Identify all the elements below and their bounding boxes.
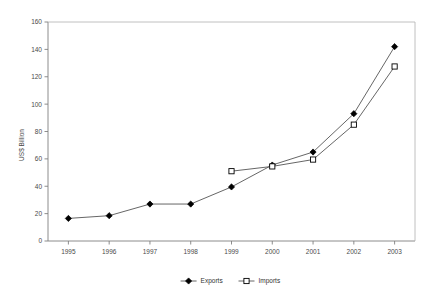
data-point-exports — [147, 201, 153, 207]
x-tick-label: 1996 — [102, 248, 117, 255]
legend-label-exports: Exports — [201, 277, 224, 285]
series-line-exports — [68, 47, 394, 219]
data-point-exports — [392, 44, 398, 50]
chart-legend: ExportsImports — [181, 277, 281, 285]
line-chart: 020406080100120140160 199519961997199819… — [0, 0, 430, 297]
x-tick-label: 2003 — [387, 248, 402, 255]
data-point-imports — [392, 64, 397, 69]
y-tick-label: 100 — [31, 101, 42, 108]
data-point-imports — [229, 169, 234, 174]
y-axis-title: US$ Billion — [18, 129, 25, 161]
x-axis-tick-group: 199519961997199819992000200120022003 — [61, 241, 402, 255]
y-tick-label: 0 — [38, 237, 42, 244]
data-point-exports — [228, 184, 234, 190]
y-tick-label: 160 — [31, 18, 42, 25]
chart-container: 020406080100120140160 199519961997199819… — [0, 0, 430, 297]
y-tick-label: 140 — [31, 46, 42, 53]
legend-marker-imports — [244, 278, 249, 283]
y-tick-label: 40 — [35, 183, 43, 190]
y-tick-label: 80 — [35, 128, 43, 135]
data-point-imports — [351, 122, 356, 127]
data-point-exports — [106, 213, 112, 219]
x-tick-label: 1999 — [224, 248, 239, 255]
x-tick-label: 1997 — [143, 248, 158, 255]
y-axis-tick-group: 020406080100120140160 — [31, 18, 48, 244]
y-tick-label: 20 — [35, 210, 43, 217]
data-point-exports — [188, 201, 194, 207]
y-tick-label: 120 — [31, 73, 42, 80]
x-tick-label: 1995 — [61, 248, 76, 255]
data-point-imports — [270, 164, 275, 169]
x-tick-label: 2000 — [265, 248, 280, 255]
series-group — [65, 44, 397, 222]
legend-label-imports: Imports — [259, 277, 281, 285]
data-point-exports — [65, 215, 71, 221]
y-tick-label: 60 — [35, 155, 43, 162]
legend-marker-exports — [186, 278, 192, 284]
x-tick-label: 2002 — [347, 248, 362, 255]
x-tick-label: 2001 — [306, 248, 321, 255]
x-tick-label: 1998 — [183, 248, 198, 255]
data-point-imports — [310, 157, 315, 162]
